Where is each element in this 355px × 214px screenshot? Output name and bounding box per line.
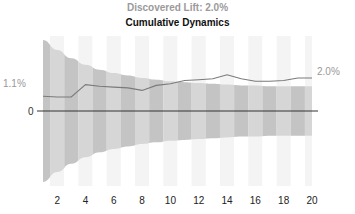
- x-tick-label: 8: [139, 195, 145, 206]
- x-tick-label: 18: [278, 195, 290, 206]
- start-value-label: 1.1%: [3, 78, 26, 89]
- x-tick-label: 12: [193, 195, 205, 206]
- x-tick-label: 6: [111, 195, 117, 206]
- x-tick-label: 20: [306, 195, 318, 206]
- cumulative-dynamics-chart: 1.1% 2.0% 0 2468101214161820: [0, 0, 355, 214]
- x-tick-label: 10: [165, 195, 177, 206]
- x-tick-label: 2: [54, 195, 60, 206]
- x-tick-label: 16: [250, 195, 262, 206]
- x-axis-ticks: 2468101214161820: [54, 195, 318, 206]
- end-value-label: 2.0%: [317, 66, 340, 77]
- zero-label: 0: [28, 106, 34, 117]
- x-tick-label: 14: [221, 195, 233, 206]
- x-tick-label: 4: [83, 195, 89, 206]
